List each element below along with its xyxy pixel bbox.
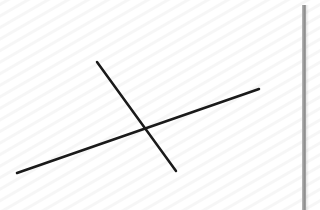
crossing-lines-drawing [0,0,320,210]
steep-line [97,62,176,171]
shallow-line [17,89,259,173]
right-edge-shadow [306,5,309,210]
drawing-canvas [0,0,320,210]
